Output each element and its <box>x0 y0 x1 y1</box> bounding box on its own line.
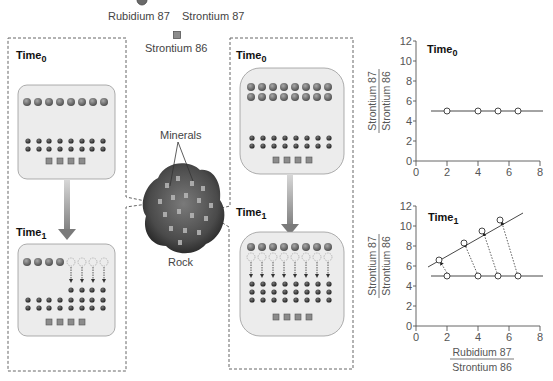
svg-text:0: 0 <box>406 155 412 167</box>
svg-text:4: 4 <box>475 331 481 343</box>
isochron-charts: Strontium 87 Strontium 86 121086420 0246… <box>355 0 553 381</box>
svg-text:6: 6 <box>406 260 412 272</box>
middle-time1-label: Time1 <box>236 206 267 221</box>
chart1-ylabel-den: Strontium 86 <box>380 236 392 296</box>
chart-time1: Strontium 87 Strontium 86 121086420 0246… <box>366 200 543 373</box>
chart0-ylabel-num: Strontium 87 <box>366 71 378 131</box>
chart-time0: Strontium 87 Strontium 86 121086420 0246… <box>366 35 543 178</box>
middle-time1-box <box>240 232 344 336</box>
svg-text:6: 6 <box>506 166 512 178</box>
chart1-ylabel-num: Strontium 87 <box>366 236 378 296</box>
rock-illustration <box>143 142 225 253</box>
svg-text:12: 12 <box>400 200 412 212</box>
svg-text:4: 4 <box>406 280 412 292</box>
svg-text:0: 0 <box>406 320 412 332</box>
svg-text:8: 8 <box>406 240 412 252</box>
svg-text:8: 8 <box>537 166 543 178</box>
left-time1-box <box>18 244 115 336</box>
chart0-ylabel-den: Strontium 86 <box>380 71 392 131</box>
svg-text:12: 12 <box>400 35 412 47</box>
chart0-title: Time0 <box>427 43 458 58</box>
middle-time0-box <box>240 68 344 174</box>
svg-text:2: 2 <box>444 331 450 343</box>
svg-text:6: 6 <box>406 95 412 107</box>
svg-text:2: 2 <box>406 300 412 312</box>
middle-time-arrow <box>281 174 299 235</box>
rock-label: Rock <box>168 256 193 268</box>
svg-text:8: 8 <box>406 75 412 87</box>
svg-text:0: 0 <box>413 331 419 343</box>
middle-time0-label: Time0 <box>236 49 267 64</box>
left-time-arrow <box>58 179 76 240</box>
chart1-title: Time1 <box>428 211 459 226</box>
svg-text:2: 2 <box>406 135 412 147</box>
svg-text:8: 8 <box>537 331 543 343</box>
minerals-label: Minerals <box>160 129 202 141</box>
svg-text:6: 6 <box>506 331 512 343</box>
chart1-xlabel-num: Rubidium 87 <box>453 346 512 358</box>
svg-text:10: 10 <box>400 55 412 67</box>
left-time1-label: Time1 <box>16 226 47 241</box>
isotope-diagram <box>0 0 380 381</box>
svg-text:4: 4 <box>475 166 481 178</box>
svg-text:2: 2 <box>444 166 450 178</box>
left-time0-label: Time0 <box>16 49 47 64</box>
left-time0-box <box>18 85 115 179</box>
svg-text:10: 10 <box>400 220 412 232</box>
chart1-xlabel-den: Strontium 86 <box>452 361 512 373</box>
svg-text:0: 0 <box>413 166 419 178</box>
svg-text:4: 4 <box>406 115 412 127</box>
